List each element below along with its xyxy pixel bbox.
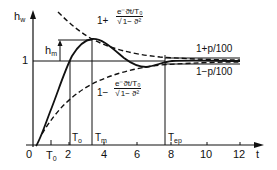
lower-formula-denominator: √1− ϑ² — [114, 89, 141, 98]
T0-label: T0 — [46, 150, 57, 162]
band-upper-label: 1+p/100 — [196, 44, 232, 54]
x-tick-4: 4 — [101, 149, 107, 160]
peak-height-arrow-icon — [58, 40, 63, 46]
Tep-label: Tep — [168, 133, 182, 144]
lower-formula-prefix: 1− — [97, 88, 108, 98]
x-tick-12: 12 — [233, 149, 245, 160]
y-axis-label: hw — [14, 11, 25, 23]
band-lower-label: 1−p/100 — [196, 67, 232, 77]
x-tick-0: 0 — [26, 149, 32, 160]
T0-sub: 0 — [53, 155, 57, 162]
y-tick-one: 1 — [22, 55, 28, 66]
upper-formula-prefix: 1+ — [97, 16, 108, 26]
peak-height-label: hm — [45, 45, 57, 57]
T0-main: T — [46, 149, 53, 161]
To-label: To — [72, 133, 82, 144]
y-axis-label-sub: w — [20, 16, 25, 23]
To-sub: o — [78, 137, 82, 144]
Tm-label: Tm — [95, 133, 107, 144]
x-axis-label: t — [256, 149, 259, 160]
lower-formula-radicand: 1− ϑ² — [120, 88, 140, 98]
x-tick-2: 2 — [65, 149, 71, 160]
y-axis-arrow-icon — [30, 10, 36, 19]
upper-formula-fraction: e⁻ϑt/T₀ √1− ϑ² — [116, 8, 143, 26]
lower-formula-fraction: e⁻ϑt/T₀ √1− ϑ² — [114, 80, 141, 98]
x-tick-10: 10 — [200, 149, 212, 160]
Tm-sub: m — [101, 137, 107, 144]
x-tick-8: 8 — [168, 149, 174, 160]
upper-formula-radicand: 1− ϑ² — [122, 16, 142, 26]
upper-formula-denominator: √1− ϑ² — [116, 17, 143, 26]
x-tick-6: 6 — [134, 149, 140, 160]
peak-label-sub: m — [51, 50, 57, 57]
Tep-sub: ep — [174, 137, 182, 144]
